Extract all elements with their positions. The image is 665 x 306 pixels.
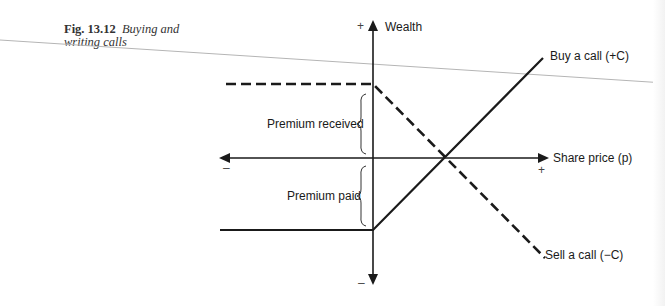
sell-call-label: Sell a call (−C) — [545, 248, 623, 262]
y-axis-label: Wealth — [385, 20, 422, 34]
buy-call-line — [220, 58, 543, 230]
page-edge-shadow — [653, 0, 665, 306]
sell-call-line — [226, 84, 545, 258]
premium-paid-label: Premium paid — [287, 189, 361, 203]
x-axis-minus-sign: – — [223, 161, 230, 175]
x-axis-label: Share price (p) — [553, 151, 632, 165]
y-axis-minus-sign: – — [358, 276, 365, 290]
wealth-axis-up-arrow-icon — [368, 20, 378, 31]
wealth-axis-down-arrow-icon — [368, 274, 378, 285]
premium-received-label: Premium received — [267, 117, 364, 131]
x-axis-plus-sign: + — [538, 163, 545, 177]
buy-call-label: Buy a call (+C) — [550, 49, 629, 63]
y-axis-plus-sign: + — [357, 19, 364, 33]
share-price-axis-right-arrow-icon — [538, 153, 549, 163]
